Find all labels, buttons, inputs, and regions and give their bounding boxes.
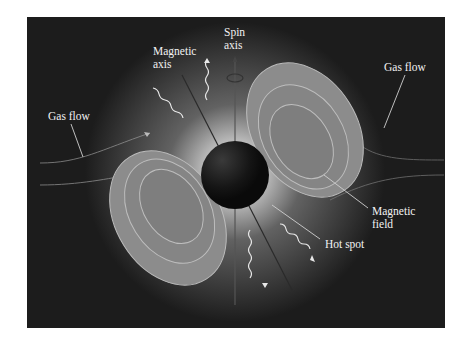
label-spin-axis: Spinaxis (224, 26, 245, 51)
neutron-star (201, 141, 269, 209)
label-gas-flow-left: Gas flow (48, 110, 91, 122)
label-gas-flow-right: Gas flow (384, 61, 427, 73)
label-hot-spot: Hot spot (325, 238, 365, 251)
accretion-diagram: Magneticaxis Spinaxis Gas flow Gas flow … (0, 0, 466, 345)
